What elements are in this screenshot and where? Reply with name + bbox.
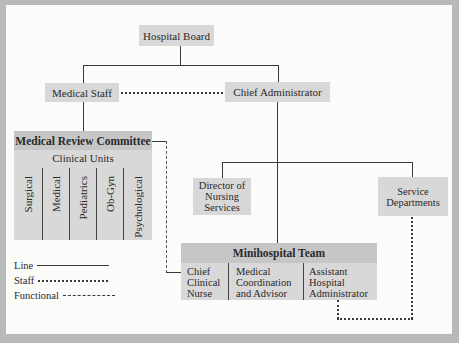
line-to-medical-staff (83, 65, 84, 83)
mrc-header: Medical Review Committee (14, 131, 152, 150)
unit-divider (96, 168, 97, 240)
staff-line-service-down (411, 217, 413, 319)
medical-staff-box: Medical Staff (45, 83, 119, 102)
service-departments-box: Service Departments (378, 177, 448, 216)
unit-label: Pediatrics (77, 176, 89, 219)
mrc-body: Clinical Units Surgical Medical Pediatri… (14, 150, 152, 240)
member-divider (228, 263, 229, 300)
unit-divider (42, 168, 43, 240)
unit-label: Psychological (132, 176, 144, 238)
member-divider (303, 263, 304, 300)
member-medical-coordination: Medical Coordination and Advisor (236, 266, 291, 299)
line-board-down (180, 46, 181, 65)
unit-divider (123, 168, 124, 240)
line-board-horizontal (83, 65, 279, 66)
staff-line-service-left (337, 318, 413, 320)
legend-staff: Staff (14, 275, 108, 286)
unit-label: Ob-Gyn (104, 176, 116, 212)
unit-pediatrics: Pediatrics (69, 168, 96, 240)
line-to-service (412, 162, 413, 177)
director-nursing-label: Director of Nursing Services (199, 180, 245, 213)
unit-label: Surgical (22, 176, 34, 212)
legend-functional-label: Functional (14, 290, 59, 301)
member-assistant-administrator: Assistant Hospital Administrator (309, 266, 368, 299)
member-chief-clinical-nurse: Chief Clinical Nurse (187, 266, 220, 299)
director-nursing-box: Director of Nursing Services (193, 178, 251, 215)
legend-staff-sample (38, 280, 108, 282)
legend-functional-sample (63, 295, 115, 296)
hospital-board-box: Hospital Board (139, 25, 214, 46)
legend-functional: Functional (14, 290, 115, 301)
service-departments-label: Service Departments (386, 186, 440, 208)
line-to-chief-admin (278, 65, 279, 82)
mrc-title: Medical Review Committee (15, 135, 150, 147)
legend-line: Line (14, 260, 109, 271)
minihospital-header: Minihospital Team (181, 243, 377, 263)
chief-administrator-label: Chief Administrator (233, 86, 321, 98)
unit-surgical: Surgical (14, 168, 42, 240)
staff-line-medical-chief (121, 92, 223, 94)
line-medstaff-to-mrc (83, 102, 84, 131)
clinical-units-label: Clinical Units (14, 152, 152, 164)
unit-ob-gyn: Ob-Gyn (96, 168, 123, 240)
legend-staff-label: Staff (14, 275, 34, 286)
unit-label: Medical (50, 176, 62, 212)
functional-line-v (166, 141, 167, 273)
medical-staff-label: Medical Staff (52, 87, 112, 99)
legend-line-label: Line (14, 260, 33, 271)
line-admin-horizontal (222, 162, 413, 163)
chief-administrator-box: Chief Administrator (225, 82, 330, 102)
legend-line-sample (37, 265, 109, 266)
unit-psychological: Psychological (123, 168, 152, 240)
staff-line-service-up (337, 300, 339, 319)
minihospital-title: Minihospital Team (233, 247, 325, 259)
functional-line-h2 (166, 272, 181, 273)
line-chief-admin-down (277, 102, 278, 243)
functional-line-h1 (152, 141, 166, 142)
line-to-director (222, 162, 223, 178)
hospital-board-label: Hospital Board (143, 30, 210, 42)
unit-medical: Medical (42, 168, 69, 240)
unit-divider (69, 168, 70, 240)
minihospital-body: Chief Clinical Nurse Medical Coordinatio… (181, 263, 377, 300)
